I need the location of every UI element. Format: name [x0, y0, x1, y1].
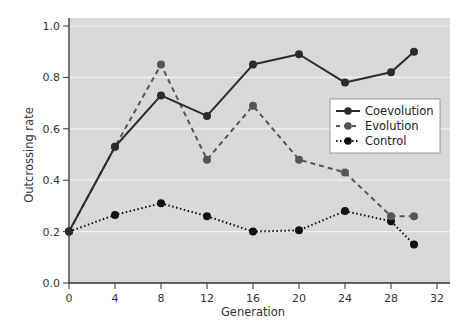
data-point-marker: [295, 156, 303, 164]
legend-label-evolution: Evolution: [365, 119, 419, 133]
x-tick-label: 12: [200, 292, 214, 305]
y-tick-label: 0.4: [43, 174, 61, 187]
data-point-marker: [295, 226, 303, 234]
y-tick-label: 0.2: [43, 226, 61, 239]
data-point-marker: [111, 211, 119, 219]
x-tick-label: 20: [292, 292, 306, 305]
line-chart: 0.00.20.40.60.81.0 048121620242832 Gener…: [0, 0, 472, 334]
data-point-marker: [249, 102, 257, 110]
legend-marker-icon: [344, 122, 352, 130]
x-axis-title: Generation: [221, 305, 285, 319]
y-tick-label: 0.0: [43, 277, 61, 290]
data-point-marker: [65, 228, 73, 236]
legend: Coevolution Evolution Control: [330, 99, 440, 153]
data-point-marker: [157, 199, 165, 207]
y-tick-label: 0.6: [43, 123, 61, 136]
x-tick-label: 24: [338, 292, 352, 305]
x-tick-label: 16: [246, 292, 260, 305]
data-point-marker: [111, 143, 119, 151]
data-point-marker: [295, 50, 303, 58]
data-point-marker: [203, 156, 211, 164]
legend-marker-icon: [344, 137, 352, 145]
x-tick-label: 8: [158, 292, 165, 305]
data-point-marker: [387, 212, 395, 220]
x-tick-label: 28: [384, 292, 398, 305]
data-point-marker: [341, 207, 349, 215]
legend-label-control: Control: [365, 134, 407, 148]
data-point-marker: [387, 68, 395, 76]
legend-label-coevolution: Coevolution: [365, 104, 434, 118]
data-point-marker: [341, 79, 349, 87]
data-point-marker: [203, 212, 211, 220]
x-tick-label: 32: [430, 292, 444, 305]
data-point-marker: [410, 240, 418, 248]
data-point-marker: [157, 91, 165, 99]
y-axis-ticks: 0.00.20.40.60.81.0: [43, 20, 70, 290]
data-point-marker: [203, 112, 211, 120]
x-tick-label: 0: [66, 292, 73, 305]
data-point-marker: [249, 61, 257, 69]
x-axis-ticks: 048121620242832: [66, 283, 445, 305]
data-point-marker: [157, 61, 165, 69]
y-tick-label: 0.8: [43, 71, 61, 84]
data-point-marker: [410, 48, 418, 56]
x-tick-label: 4: [112, 292, 119, 305]
data-point-marker: [341, 168, 349, 176]
legend-marker-icon: [344, 107, 352, 115]
data-point-marker: [249, 228, 257, 236]
y-axis-title: Outcrossing rate: [22, 107, 36, 202]
data-point-marker: [410, 212, 418, 220]
y-tick-label: 1.0: [43, 20, 61, 33]
